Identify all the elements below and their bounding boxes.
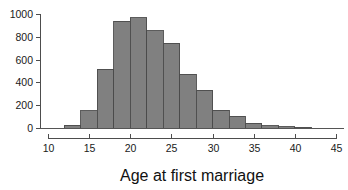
x-axis-title: Age at first marriage <box>120 167 264 184</box>
histogram-bar <box>147 31 163 128</box>
histogram-bar <box>180 74 196 128</box>
histogram-bar <box>196 90 212 128</box>
x-axis-tick-label: 15 <box>84 142 96 154</box>
x-axis-tick-label: 45 <box>331 142 343 154</box>
histogram-bar <box>64 125 80 128</box>
histogram-bar <box>213 110 229 128</box>
x-axis-tick-label: 25 <box>166 142 178 154</box>
histogram-bar <box>114 21 130 128</box>
x-axis-tick-label: 40 <box>290 142 302 154</box>
histogram-bar <box>130 18 146 128</box>
x-axis-tick-label: 10 <box>43 142 55 154</box>
histogram-bar <box>229 116 245 128</box>
histogram-plot: 02004006008001000 1015202530354045 Age a… <box>0 0 348 190</box>
histogram-bar <box>81 111 97 128</box>
y-axis-tick-label: 200 <box>15 99 33 111</box>
histogram-bar <box>163 43 179 128</box>
histogram-bar <box>278 127 294 128</box>
histogram-bar <box>262 126 278 128</box>
x-axis: 1015202530354045 <box>43 134 343 154</box>
histogram-bar <box>97 69 113 128</box>
y-axis: 02004006008001000 <box>10 8 41 134</box>
x-axis-tick-label: 30 <box>208 142 220 154</box>
x-axis-tick-label: 20 <box>125 142 137 154</box>
histogram-figure: 02004006008001000 1015202530354045 Age a… <box>0 0 348 190</box>
bars-group <box>64 18 311 128</box>
y-axis-tick-label: 600 <box>15 54 33 66</box>
y-axis-tick-label: 1000 <box>10 8 34 20</box>
y-axis-tick-label: 0 <box>27 122 33 134</box>
x-axis-tick-label: 35 <box>249 142 261 154</box>
y-axis-tick-label: 400 <box>15 76 33 88</box>
histogram-bar <box>245 123 261 128</box>
y-axis-tick-label: 800 <box>15 31 33 43</box>
